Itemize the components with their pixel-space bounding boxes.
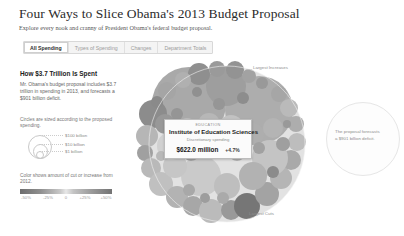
tab-bar: All Spending Types of Spending Changes D… [23,41,213,54]
color-legend-ticks: -50% -25% 0 +25% +50% [20,195,112,203]
size-legend-tick-small [39,151,63,152]
tab-changes[interactable]: Changes [125,42,159,53]
color-tick-4: +50% [101,195,112,200]
tooltip-change: +4.7% [225,147,239,154]
page-subtitle: Explore every nook and cranny of Preside… [19,24,379,32]
color-legend-caption: Color shows amount of cut or increase fr… [20,173,125,186]
size-legend-tick-large [39,135,63,136]
size-legend: $100 billion $10 billion $1 billion [20,133,125,167]
color-tick-0: -50% [21,195,31,200]
size-legend-label-small: $1 billion [65,149,82,154]
size-legend-tick-medium [39,144,63,145]
color-tick-2: 0 [65,195,67,200]
tooltip-program-name: Institute of Education Sciences [169,129,247,136]
chart-annotation-largest-increases: Largest Increases [253,65,288,70]
size-legend-label-large: $100 billion [65,133,87,138]
color-tick-1: -25% [43,195,53,200]
size-legend-label-medium: $10 billion [65,142,85,147]
tooltip-department: EDUCATION [169,123,247,128]
tooltip-figures: $622.0 million +4.7% [169,146,247,154]
deficit-annotation-group: The proposal forecasts a $901 billion de… [326,102,404,180]
left-panel-body: Mr. Obama's budget proposal includes $3.… [20,81,125,103]
deficit-label: The proposal forecasts a $901 billion de… [335,129,393,142]
bubble-tooltip: EDUCATION Institute of Education Science… [164,119,252,159]
deficit-label-line2: a $901 billion deficit. [335,136,393,143]
page-title: Four Ways to Slice Obama's 2013 Budget P… [19,6,379,21]
color-tick-3: +25% [80,195,91,200]
tab-department-totals[interactable]: Department Totals [158,42,212,53]
left-panel: How $3.7 Trillion Is Spent Mr. Obama's b… [20,70,125,203]
size-legend-caption: Circles are sized according to the propo… [20,117,125,130]
tab-types-of-spending[interactable]: Types of Spending [69,42,125,53]
chart-annotation-largest-cuts: Largest Cuts [249,211,274,216]
tab-all-spending[interactable]: All Spending [24,42,69,53]
size-legend-circle-small [36,151,44,159]
color-legend-ramp [20,189,112,194]
left-panel-heading: How $3.7 Trillion Is Spent [20,70,125,78]
tooltip-amount: $622.0 million [176,146,218,153]
header: Four Ways to Slice Obama's 2013 Budget P… [19,6,379,32]
tooltip-spending-type: Discretionary spending [169,137,247,143]
